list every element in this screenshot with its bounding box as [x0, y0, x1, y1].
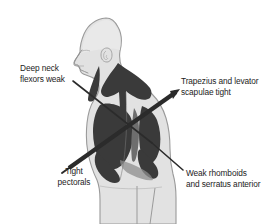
label-tight-pectorals: Tight pectorals	[48, 166, 100, 187]
label-tight-pectorals-line1: Tight	[48, 166, 100, 177]
label-deep-neck-line1: Deep neck	[20, 63, 65, 74]
upper-crossed-syndrome-diagram: Deep neck flexors weak Trapezius and lev…	[0, 0, 279, 224]
label-weak-rhomboids-serratus-anterior: Weak rhomboids and serratus anterior	[186, 168, 260, 189]
label-weak-rhomboids-line2: and serratus anterior	[186, 179, 260, 190]
label-weak-rhomboids-line1: Weak rhomboids	[186, 168, 260, 179]
label-deep-neck-flexors-weak: Deep neck flexors weak	[20, 63, 65, 84]
label-trapezius-line2: scapulae tight	[181, 87, 258, 98]
label-trapezius-levator-scapulae-tight: Trapezius and levator scapulae tight	[181, 76, 258, 97]
anatomy-figure-svg	[0, 0, 279, 224]
skull-shade	[82, 20, 121, 53]
label-trapezius-line1: Trapezius and levator	[181, 76, 258, 87]
label-tight-pectorals-line2: pectorals	[48, 177, 100, 188]
ear-detail	[101, 48, 112, 62]
label-deep-neck-line2: flexors weak	[20, 74, 65, 85]
